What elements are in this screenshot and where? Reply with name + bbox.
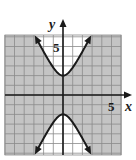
y-tick-label-5: 5 [53, 40, 60, 55]
x-axis-label: x [124, 99, 132, 114]
y-axis-label: y [47, 17, 56, 32]
hyperbola-graph: y x 5 5 [0, 0, 136, 160]
x-tick-label-5: 5 [108, 99, 115, 114]
